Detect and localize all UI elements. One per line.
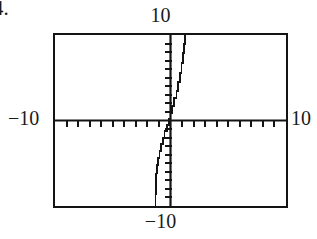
y-min-label: −10	[0, 211, 317, 231]
plot-frame	[53, 33, 288, 208]
x-min-label: −10	[8, 108, 39, 128]
x-max-label: 10	[291, 108, 311, 128]
graph-figure: 4. 10 −10 10 −10	[0, 0, 317, 239]
plot-canvas	[55, 35, 286, 206]
y-max-label: 10	[0, 5, 317, 25]
